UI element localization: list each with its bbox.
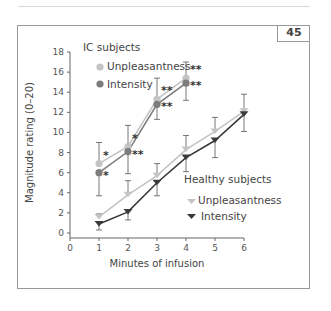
legend-ic-unpleasantness-icon xyxy=(96,63,103,70)
x-tick-label: 3 xyxy=(154,243,160,253)
data-point xyxy=(95,221,104,227)
data-point xyxy=(182,80,189,87)
data-point xyxy=(182,147,191,153)
legend-group-title-healthy: Healthy subjects xyxy=(184,173,272,185)
x-tick-label: 0 xyxy=(67,243,73,253)
x-tick-label: 6 xyxy=(241,243,247,253)
y-tick-label: 8 xyxy=(58,148,64,158)
significance-marker: ** xyxy=(161,84,173,97)
legend-healthy-intensity-icon xyxy=(187,214,196,219)
legend: IC subjectsUnpleasantnessIntensityHealth… xyxy=(83,41,282,222)
data-point xyxy=(95,160,102,167)
y-tick-label: 18 xyxy=(53,47,65,57)
data-point xyxy=(95,169,102,176)
series-line-healthy-intensity xyxy=(99,114,244,224)
legend-group-title-ic: IC subjects xyxy=(83,41,140,53)
y-tick-label: 6 xyxy=(58,168,64,178)
data-point xyxy=(95,214,104,220)
data-point xyxy=(124,148,131,155)
legend-ic-intensity-label: Intensity xyxy=(107,78,153,90)
y-tick-label: 16 xyxy=(53,67,65,77)
data-point xyxy=(153,101,160,108)
significance-marker: ** xyxy=(161,100,173,113)
y-tick-label: 2 xyxy=(58,208,64,218)
legend-ic-unpleasantness-label: Unpleasantness xyxy=(107,60,191,72)
data-point xyxy=(153,180,162,186)
legend-healthy-intensity-label: Intensity xyxy=(201,210,247,222)
significance-marker: ** xyxy=(190,79,202,92)
x-tick-label: 4 xyxy=(183,243,189,253)
legend-healthy-unpleasantness-label: Unpleasantness xyxy=(198,194,282,206)
x-tick-label: 5 xyxy=(212,243,218,253)
y-tick-label: 0 xyxy=(58,228,64,238)
chart: 0246810121416180123456Minutes of infusio… xyxy=(0,0,331,311)
y-tick-label: 4 xyxy=(58,188,64,198)
significance-marker: * xyxy=(132,132,138,145)
y-tick-label: 10 xyxy=(53,127,65,137)
significance-marker: * xyxy=(103,149,109,162)
x-axis-label: Minutes of infusion xyxy=(110,258,205,269)
significance-marker: ** xyxy=(190,63,202,76)
y-tick-label: 14 xyxy=(53,87,65,97)
significance-marker: * xyxy=(103,169,109,182)
y-tick-label: 12 xyxy=(53,107,64,117)
significance-marker: ** xyxy=(132,148,144,161)
x-tick-label: 1 xyxy=(96,243,102,253)
legend-healthy-unpleasantness-icon xyxy=(187,199,196,204)
y-axis-label: Magnitude rating (0–20) xyxy=(24,82,35,203)
x-tick-label: 2 xyxy=(125,243,131,253)
legend-ic-intensity-icon xyxy=(96,80,103,87)
